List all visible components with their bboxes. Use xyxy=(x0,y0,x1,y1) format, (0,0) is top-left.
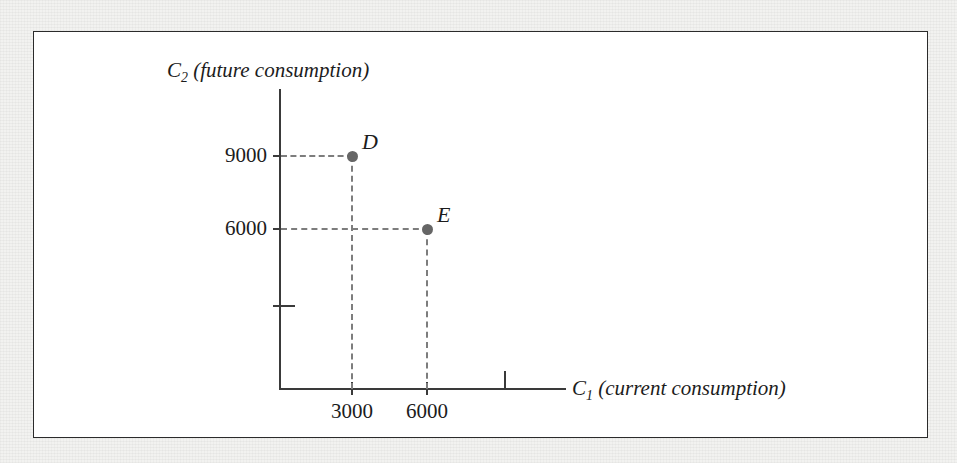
y-axis-title-variable: C xyxy=(167,58,181,82)
y-axis-line xyxy=(279,89,281,390)
data-point-e xyxy=(422,224,433,235)
x-axis-title: C1 (current consumption) xyxy=(572,378,786,403)
guide-line-e-horizontal xyxy=(281,228,429,230)
y-tick-3000-unlabeled xyxy=(273,305,295,307)
guide-line-d-vertical xyxy=(351,156,353,389)
y-axis-title-subscript: 2 xyxy=(181,70,188,85)
x-axis-title-variable: C xyxy=(572,376,586,400)
x-axis-line xyxy=(279,388,566,390)
y-tick-label-6000: 6000 xyxy=(215,218,267,239)
guide-line-d-horizontal xyxy=(281,155,353,157)
figure-frame: D E 9000 6000 3000 6000 C2 (future consu… xyxy=(33,31,928,438)
data-point-d xyxy=(347,151,358,162)
x-axis-title-subscript: 1 xyxy=(586,388,593,403)
y-axis-title: C2 (future consumption) xyxy=(167,60,369,85)
x-tick-9000-unlabeled xyxy=(504,371,506,389)
x-tick-label-6000: 6000 xyxy=(400,401,454,422)
guide-line-e-vertical xyxy=(426,229,428,389)
figure-page: D E 9000 6000 3000 6000 C2 (future consu… xyxy=(0,0,957,463)
x-tick-label-3000: 3000 xyxy=(325,401,379,422)
y-tick-label-9000: 9000 xyxy=(215,145,267,166)
x-axis-title-text: (current consumption) xyxy=(593,376,786,400)
data-point-label-d: D xyxy=(362,131,378,153)
y-axis-title-text: (future consumption) xyxy=(188,58,369,82)
data-point-label-e: E xyxy=(437,204,450,226)
plot-area: D E 9000 6000 3000 6000 C2 (future consu… xyxy=(34,32,927,437)
